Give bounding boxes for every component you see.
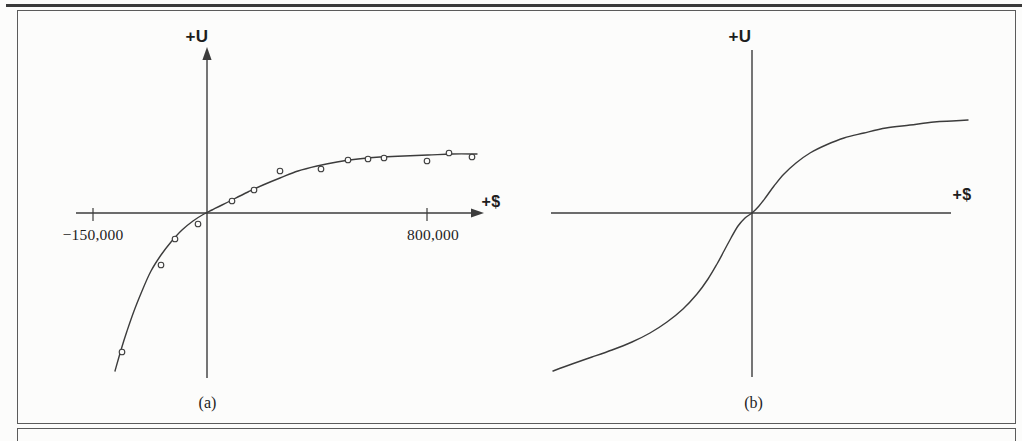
data-point-marker-a: [195, 221, 201, 227]
data-point-marker-a: [446, 150, 452, 156]
panel-a-tick-label-positive: 800,000: [394, 227, 472, 243]
y-axis-arrowhead-icon-a: [202, 47, 211, 60]
panel-b-y-axis-label: +U: [722, 28, 758, 45]
panel-a-y-axis-label: +U: [179, 28, 215, 45]
utility-curve-b: [553, 120, 968, 371]
panel-a-x-axis-label: +$: [474, 194, 508, 210]
data-point-marker-a: [158, 262, 164, 268]
data-point-marker-a: [424, 158, 430, 164]
data-point-marker-a: [119, 349, 125, 355]
scanned-figure-page: +U +$ −150,000 800,000 (a) +U +$ (b): [0, 0, 1022, 441]
data-point-marker-a: [381, 155, 387, 161]
data-point-marker-a: [277, 168, 283, 174]
data-point-marker-a: [172, 236, 178, 242]
data-point-marker-a: [251, 187, 257, 193]
utility-curve-a: [115, 154, 477, 371]
panel-a-tick-label-negative: −150,000: [54, 227, 132, 243]
panel-b-x-axis-label: +$: [944, 187, 980, 203]
data-point-marker-a: [345, 157, 351, 163]
data-point-marker-a: [469, 154, 475, 160]
panel-b-caption: (b): [733, 395, 774, 411]
utility-curves-plot-canvas: [0, 0, 1022, 441]
panel-a-caption: (a): [187, 395, 228, 411]
data-point-marker-a: [365, 156, 371, 162]
data-point-marker-a: [229, 198, 235, 204]
data-point-marker-a: [318, 166, 324, 172]
